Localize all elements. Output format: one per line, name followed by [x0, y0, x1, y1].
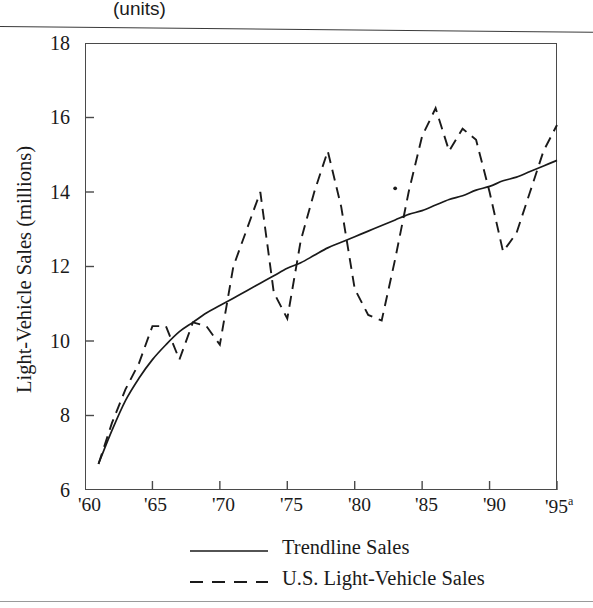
x-tick-superscript-a: a: [568, 494, 573, 508]
x-tick-marks: [152, 481, 557, 490]
y-axis-group: Light-Vehicle Sales (millions) 18 16 14 …: [0, 0, 85, 608]
chart-page: (units) Light-Vehicle Sales (millions) 1…: [0, 0, 593, 608]
legend-item-actual: U.S. Light-Vehicle Sales: [0, 567, 593, 598]
units-label: (units): [113, 0, 166, 20]
x-tick-label-95-text: '95: [545, 496, 568, 517]
y-tick-label-10: 10: [26, 330, 70, 353]
legend-label-trendline: Trendline Sales: [282, 536, 409, 559]
x-tick-label-90: '90: [483, 494, 506, 516]
series-line-trendline-sales: [98, 160, 557, 464]
x-tick-label-80: '80: [348, 494, 371, 516]
x-tick-label-85: '85: [415, 494, 438, 516]
y-tick-label-12: 12: [26, 255, 70, 278]
x-tick-label-60: '60: [78, 494, 101, 516]
plot-area: [85, 43, 557, 490]
legend-key-dashed: [190, 580, 268, 582]
y-tick-label-6: 6: [26, 479, 70, 502]
y-tick-marks: [85, 118, 94, 416]
x-tick-label-75: '75: [280, 494, 303, 516]
legend-key-solid: [190, 549, 268, 551]
y-tick-label-14: 14: [26, 181, 70, 204]
legend-item-trendline: Trendline Sales: [0, 536, 593, 567]
footer-divider: [0, 601, 593, 602]
y-tick-label-8: 8: [26, 404, 70, 427]
x-tick-label-95: '95a: [545, 494, 573, 518]
series-canvas: [85, 43, 557, 490]
x-tick-label-65: '65: [144, 494, 167, 516]
y-tick-label-18: 18: [26, 32, 70, 55]
series-line-us-light-vehicle-sales: [98, 108, 557, 464]
header-divider: [0, 26, 593, 33]
y-tick-label-16: 16: [26, 106, 70, 129]
legend-label-actual: U.S. Light-Vehicle Sales: [282, 567, 485, 590]
chart-legend: Trendline Sales U.S. Light-Vehicle Sales: [0, 536, 593, 598]
x-tick-label-70: '70: [212, 494, 235, 516]
data-point-marker: [393, 186, 397, 190]
